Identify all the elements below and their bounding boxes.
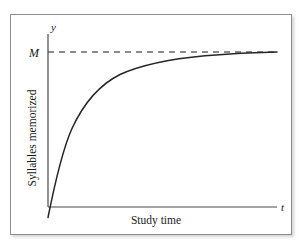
top-caption (0, 0, 304, 5)
figure-page: y t M Syllables memorized Study time (0, 0, 304, 247)
figure-frame (10, 14, 292, 235)
